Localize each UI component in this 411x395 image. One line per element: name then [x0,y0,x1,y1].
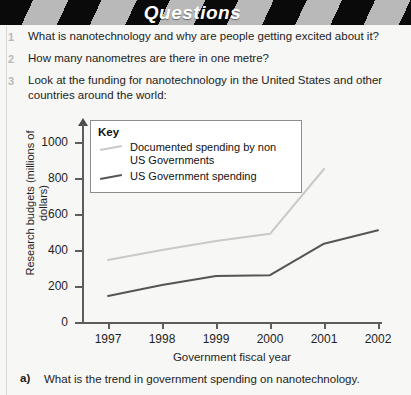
legend-item: US Government spending [98,170,294,183]
legend-title: Key [98,126,294,138]
question-item: 1 What is nanotechnology and why are peo… [8,29,406,44]
sub-question-text: What is the trend in government spending… [44,372,360,386]
question-item: 3 Look at the funding for nanotechnology… [8,73,406,102]
sub-question-item: a) What is the trend in government spend… [20,372,400,386]
question-text: How many nanometres are there in one met… [28,51,269,66]
question-text: What is nanotechnology and why are peopl… [28,29,379,44]
chart-legend: Key Documented spending by non US Govern… [90,120,302,193]
legend-swatch-us [98,170,124,183]
questions-list: 1 What is nanotechnology and why are peo… [8,29,406,109]
page-header-banner: Questions [0,0,411,25]
legend-label: Documented spending by non US Government… [130,141,294,167]
legend-item: Documented spending by non US Government… [98,141,294,167]
legend-label: US Government spending [130,170,257,183]
legend-swatch-non-us [98,141,124,154]
question-item: 2 How many nanometres are there in one m… [8,51,406,66]
page-title: Questions [0,0,411,25]
question-text: Look at the funding for nanotechnology i… [28,73,406,102]
series-line-us-government [108,230,378,296]
question-number: 1 [8,29,28,44]
sub-question-number: a) [20,372,44,384]
question-number: 3 [8,73,28,88]
question-number: 2 [8,51,28,66]
line-chart: 1000 800 600 400 200 0 Research budgets … [0,118,411,368]
